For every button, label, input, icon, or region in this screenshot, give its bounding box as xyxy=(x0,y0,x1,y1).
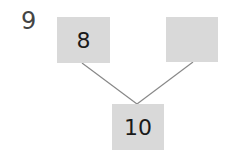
number-bond-diagram: 9 8 10 xyxy=(0,0,229,157)
connector-left xyxy=(82,63,137,104)
part-box-right-empty[interactable] xyxy=(166,17,218,62)
whole-box: 10 xyxy=(112,104,164,150)
connector-right xyxy=(137,62,193,104)
part-box-left: 8 xyxy=(57,17,110,63)
